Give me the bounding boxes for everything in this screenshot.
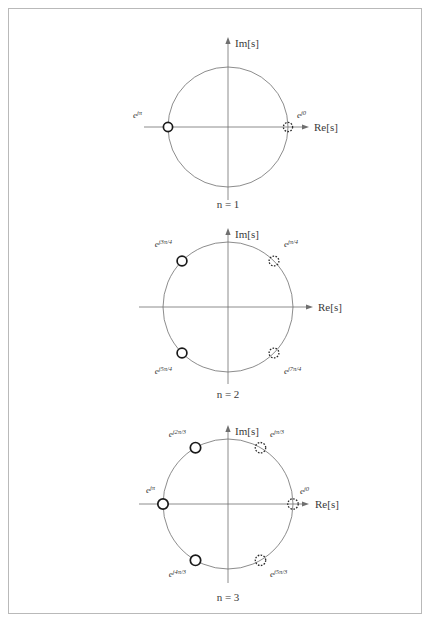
imaginary-axis-arrow-n2 [225, 228, 230, 235]
real-axis-arrow-n1 [302, 124, 309, 129]
panel-caption-n3: n = 3 [217, 591, 240, 603]
root-label-n2-2: ej5π/4 [155, 365, 173, 377]
imaginary-axis-arrow-n1 [225, 37, 230, 44]
root-label-n2-0: ej3π/4 [155, 238, 173, 250]
root-label-n3-1: ejπ/3 [270, 428, 285, 440]
root-marker-solid-n3-0 [190, 443, 200, 453]
real-axis-label-n1: Re[s] [314, 121, 338, 133]
imaginary-axis-label-n2: Im[s] [235, 228, 259, 240]
real-axis-label-n2: Re[s] [318, 301, 342, 313]
panel-caption-n2: n = 2 [217, 388, 240, 400]
real-axis-label-n3: Re[s] [315, 498, 339, 510]
figure-frame: Im[s] Re[s] ejπ ej0 n = 1 Im[s] Re[s] [8, 8, 422, 614]
root-label-n1-0: ejπ [133, 109, 143, 121]
root-label-n3-4: ej4π/3 [169, 568, 187, 580]
root-label-n1-1: ej0 [297, 109, 307, 121]
plot-n1: Im[s] Re[s] ejπ ej0 n = 1 [9, 17, 421, 213]
imaginary-axis-label-n3: Im[s] [235, 425, 259, 437]
real-axis-arrow-n3 [302, 501, 309, 506]
root-label-n3-5: ej5π/3 [270, 568, 288, 580]
root-marker-solid-n1-0 [163, 122, 172, 131]
root-label-n3-0: ej2π/3 [169, 428, 187, 440]
root-label-n3-2: ejπ [146, 484, 156, 496]
panel-n3: Im[s] Re[s] ej2π/3 ejπ/3 ejπ ej0 ej4π/3 … [9, 411, 421, 611]
panel-caption-n1: n = 1 [217, 198, 240, 210]
root-marker-solid-n3-4 [190, 555, 200, 565]
root-label-n2-1: ejπ/4 [284, 238, 299, 250]
real-axis-arrow-n2 [306, 304, 313, 309]
panel-n1: Im[s] Re[s] ejπ ej0 n = 1 [9, 17, 421, 213]
root-marker-solid-n3-2 [158, 499, 168, 509]
plot-n3: Im[s] Re[s] ej2π/3 ejπ/3 ejπ ej0 ej4π/3 … [9, 411, 421, 611]
plot-n2: Im[s] Re[s] ej3π/4 ejπ/4 ej5π/4 ej7π/4 n… [9, 214, 421, 410]
imaginary-axis-arrow-n3 [225, 425, 230, 432]
root-label-n3-3: ej0 [300, 485, 310, 497]
imaginary-axis-label-n1: Im[s] [235, 37, 259, 49]
root-marker-solid-n2-0 [177, 256, 187, 266]
panel-n2: Im[s] Re[s] ej3π/4 ejπ/4 ej5π/4 ej7π/4 n… [9, 214, 421, 410]
root-marker-solid-n2-2 [177, 348, 187, 358]
root-label-n2-3: ej7π/4 [284, 365, 302, 377]
